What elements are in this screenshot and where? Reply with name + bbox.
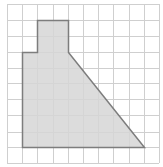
grid-polygon-figure bbox=[0, 0, 163, 167]
